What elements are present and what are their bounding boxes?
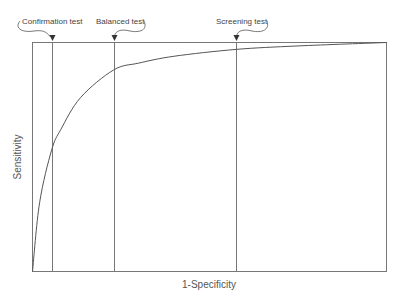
roc-chart: Confirmation testBalanced testScreening … [0,0,403,299]
roc-curve [33,43,387,272]
x-axis-label: 1-Specificity [182,279,236,290]
y-axis-label: Sensitivity [12,134,23,179]
annotations: Confirmation testBalanced testScreening … [18,17,268,41]
annotation-label-2: Balanced test [96,17,145,26]
arrow-down-icon [50,35,56,41]
annotation-label-3: Screening test [216,17,268,26]
threshold-lines [53,43,237,272]
arrow-down-icon [112,35,118,41]
plot-frame [33,43,387,272]
arrow-down-icon [234,35,240,41]
annotation-label-1: Confirmation test [22,17,83,26]
